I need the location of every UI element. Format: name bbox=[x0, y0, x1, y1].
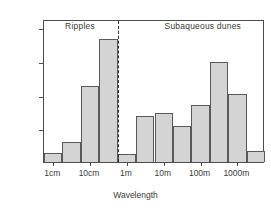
y-tick-mark bbox=[39, 130, 44, 131]
x-tick-label: 1m bbox=[120, 168, 132, 178]
bar bbox=[155, 113, 173, 162]
y-tick-mark bbox=[39, 97, 44, 98]
x-tick-mark bbox=[53, 162, 54, 166]
x-tick-mark bbox=[90, 162, 91, 166]
bar bbox=[210, 62, 228, 163]
region-divider-line bbox=[118, 21, 119, 162]
bar bbox=[62, 142, 80, 162]
bar bbox=[136, 116, 154, 162]
bar bbox=[99, 39, 117, 162]
histogram-figure: 5%10%15%20% 1cm10cm1m10m100m1000m Ripple… bbox=[0, 0, 271, 223]
x-tick-mark bbox=[127, 162, 128, 166]
region-label-subaqueous-dunes: Subaqueous dunes bbox=[165, 21, 241, 31]
bar bbox=[247, 151, 265, 162]
y-tick-mark bbox=[39, 63, 44, 64]
bar bbox=[118, 154, 136, 162]
x-tick-label: 10m bbox=[154, 168, 171, 178]
x-axis-title: Wavelength bbox=[0, 190, 271, 200]
y-tick-mark bbox=[39, 29, 44, 30]
bar bbox=[173, 126, 191, 162]
bar bbox=[81, 86, 99, 162]
x-tick-label: 1000m bbox=[223, 168, 249, 178]
x-tick-label: 10cm bbox=[79, 168, 100, 178]
x-tick-mark bbox=[237, 162, 238, 166]
bars-layer bbox=[44, 21, 263, 162]
plot-area bbox=[43, 20, 264, 163]
x-tick-mark bbox=[201, 162, 202, 166]
bar bbox=[191, 105, 209, 162]
x-tick-label: 100m bbox=[189, 168, 210, 178]
bar bbox=[228, 94, 246, 162]
bar bbox=[44, 153, 62, 162]
x-tick-label: 1cm bbox=[44, 168, 60, 178]
region-label-ripples: Ripples bbox=[65, 21, 95, 31]
x-tick-mark bbox=[164, 162, 165, 166]
